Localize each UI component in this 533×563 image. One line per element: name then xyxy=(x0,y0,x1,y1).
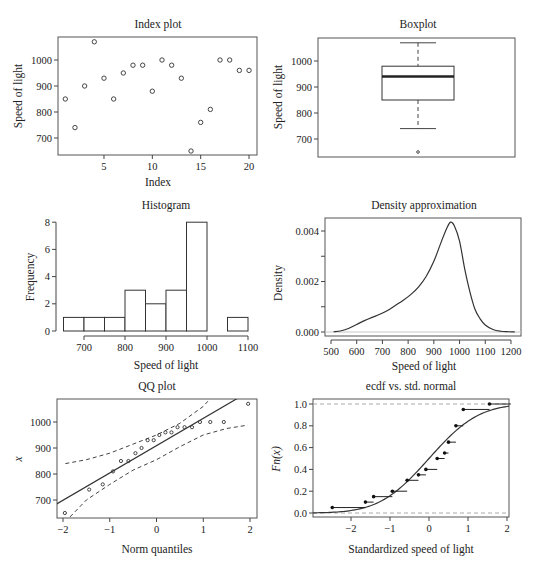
ecdf-point xyxy=(330,506,334,510)
x-tick-label: 2 xyxy=(504,523,509,534)
qq-reference-line xyxy=(49,383,264,509)
qq-point xyxy=(63,511,66,514)
y-tick-label: 1000 xyxy=(291,56,312,67)
x-tick-label: 1000 xyxy=(197,342,218,353)
qq-points xyxy=(63,402,249,514)
iqr-box xyxy=(382,66,454,100)
qq-point xyxy=(190,426,193,429)
qq-x-label: Norm quantiles xyxy=(121,543,193,556)
data-point xyxy=(121,71,125,75)
y-tick-label: 0.6 xyxy=(294,442,307,453)
ecdf-point xyxy=(391,489,395,493)
x-tick-label: 900 xyxy=(426,346,442,357)
qq-point xyxy=(134,452,137,455)
ecdf-plot: ecdf vs. std. normal 0.00.20.40.60.81.0 … xyxy=(270,380,511,556)
index-y-axis: 7008009001000 xyxy=(31,55,58,144)
histogram-bar xyxy=(146,304,167,331)
data-point xyxy=(208,107,212,111)
y-tick-label: 700 xyxy=(296,134,312,145)
index-x-label: Index xyxy=(145,176,171,188)
y-tick-label: 0.2 xyxy=(294,486,307,497)
x-tick-label: −2 xyxy=(345,523,356,534)
histogram-bar xyxy=(105,317,126,331)
density-x-label: Speed of light xyxy=(392,360,457,373)
index-y-label: Speed of light xyxy=(12,63,25,128)
x-tick-label: 0 xyxy=(426,523,431,534)
ecdf-steps xyxy=(330,402,510,509)
y-tick-label: 700 xyxy=(36,133,52,144)
y-tick-label: 1000 xyxy=(31,55,52,66)
x-tick-label: 1000 xyxy=(449,346,470,357)
data-point xyxy=(227,58,231,62)
x-tick-label: 10 xyxy=(147,161,158,172)
ecdf-frame xyxy=(313,399,509,517)
density-frame xyxy=(325,218,521,336)
y-tick-label: 800 xyxy=(296,108,312,119)
x-tick-label: 2 xyxy=(247,524,252,535)
ecdf-x-axis: −2−1012 xyxy=(345,517,509,534)
index-plot: Index plot 7008009001000 5101520 Index S… xyxy=(12,18,257,188)
x-tick-label: 1100 xyxy=(238,342,259,353)
histogram-bar xyxy=(166,290,187,331)
data-point xyxy=(218,58,222,62)
ecdf-point xyxy=(462,408,466,412)
histogram-bar xyxy=(125,290,146,331)
data-point xyxy=(111,97,115,101)
ecdf-y-label: Fn(x) xyxy=(270,446,283,473)
boxplot-box xyxy=(382,43,454,154)
ecdf-point xyxy=(435,457,439,461)
x-tick-label: 1 xyxy=(465,523,470,534)
x-tick-label: 700 xyxy=(76,342,92,353)
y-tick-label: 0.002 xyxy=(295,276,319,287)
x-tick-label: −2 xyxy=(57,524,68,535)
qq-title: QQ plot xyxy=(138,380,176,393)
x-tick-label: 5 xyxy=(101,161,106,172)
qq-point xyxy=(170,431,173,434)
qq-point xyxy=(140,446,143,449)
x-tick-label: −1 xyxy=(384,523,395,534)
ecdf-point xyxy=(417,473,421,477)
boxplot: Boxplot 7008009001000 Speed of light xyxy=(272,18,515,157)
boxplot-y-axis: 7008009001000 xyxy=(291,56,318,145)
index-x-axis: 5101520 xyxy=(101,155,254,172)
y-tick-label: 0.0 xyxy=(294,508,307,519)
data-point xyxy=(237,68,241,72)
qq-point xyxy=(164,431,167,434)
qq-point xyxy=(222,420,225,423)
histogram-bar xyxy=(187,222,208,331)
y-tick-label: 1.0 xyxy=(294,399,307,410)
y-tick-label: 0.4 xyxy=(294,464,308,475)
histogram-y-axis: 02468 xyxy=(45,217,56,337)
boxplot-title: Boxplot xyxy=(399,18,437,31)
ecdf-y-axis: 0.00.20.40.60.81.0 xyxy=(294,399,313,519)
ecdf-point xyxy=(372,495,376,499)
x-tick-label: −1 xyxy=(104,524,115,535)
y-tick-label: 8 xyxy=(45,217,50,228)
x-tick-label: 500 xyxy=(323,346,339,357)
y-tick-label: 0.004 xyxy=(295,226,319,237)
density-plot: Density approximation 0.0000.0020.004 50… xyxy=(272,199,521,373)
ecdf-title: ecdf vs. std. normal xyxy=(366,380,456,392)
x-tick-label: 800 xyxy=(117,342,133,353)
figure-panel-grid: Index plot 7008009001000 5101520 Index S… xyxy=(0,0,533,563)
ecdf-x-label: Standardized speed of light xyxy=(348,543,474,556)
y-tick-label: 900 xyxy=(36,81,52,92)
x-tick-label: 900 xyxy=(158,342,174,353)
data-point xyxy=(82,84,86,88)
y-tick-label: 900 xyxy=(35,443,51,454)
data-point xyxy=(169,63,173,67)
ecdf-point xyxy=(488,402,492,406)
data-point xyxy=(92,40,96,44)
x-tick-label: 1100 xyxy=(475,346,496,357)
ecdf-point xyxy=(443,451,447,455)
density-x-axis: 500600700800900100011001200 xyxy=(323,340,521,357)
data-point xyxy=(131,63,135,67)
ecdf-point xyxy=(447,440,451,444)
histogram-bars xyxy=(64,222,249,331)
histogram: Histogram 02468 70080090010001100 Speed … xyxy=(24,199,258,372)
data-point xyxy=(179,76,183,80)
y-tick-label: 6 xyxy=(45,244,50,255)
y-tick-label: 900 xyxy=(296,82,312,93)
y-tick-label: 700 xyxy=(35,495,51,506)
x-tick-label: 1 xyxy=(201,524,206,535)
